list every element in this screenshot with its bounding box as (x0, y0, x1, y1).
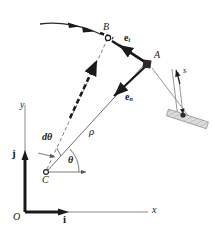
dtheta-arc (38, 148, 61, 157)
hatched-support-block (166, 109, 208, 129)
diagram-svg (0, 0, 212, 236)
label-arc-length-s: s (183, 66, 187, 75)
y-axis (22, 105, 29, 212)
point-b-marker (105, 35, 110, 40)
label-origin: O (13, 212, 20, 222)
label-radius-rho: ρ (89, 126, 94, 137)
label-point-c: C (42, 175, 49, 185)
point-a-marker (142, 59, 151, 68)
label-point-a: A (154, 50, 160, 60)
label-unit-et: et (124, 33, 130, 43)
label-axis-x: x (152, 205, 156, 215)
radius-rho-prime-dashed (47, 40, 107, 169)
label-axis-y: y (20, 100, 24, 110)
label-point-b: B (103, 22, 109, 32)
unit-en-subscript: n (129, 95, 132, 102)
label-angle-theta: θ (68, 155, 73, 165)
tangent-unit-vector (119, 45, 145, 62)
label-unit-en: en (125, 92, 133, 102)
x-axis (25, 209, 148, 216)
path-curve (40, 23, 100, 35)
label-angle-dtheta: dθ (42, 132, 52, 142)
label-unit-i: i (63, 214, 66, 225)
unit-et-subscript: t (128, 36, 130, 43)
label-unit-j: j (12, 148, 16, 159)
figure-canvas: B A C O x y i j et en ρ θ dθ s (0, 0, 212, 236)
